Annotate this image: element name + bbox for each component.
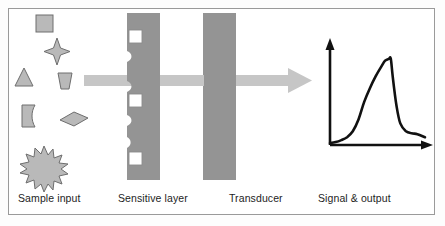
biosensor-diagram: Sample input Sensitive layer Transducer … (0, 0, 445, 226)
label-sensitive-layer: Sensitive layer (118, 192, 188, 204)
label-sample-input: Sample input (18, 192, 81, 204)
stage-labels: Sample input Sensitive layer Transducer … (0, 0, 445, 226)
label-signal-output: Signal & output (318, 192, 391, 204)
label-transducer: Transducer (229, 192, 283, 204)
